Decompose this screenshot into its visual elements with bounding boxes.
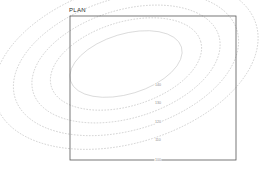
contour-label: 110 <box>155 138 162 142</box>
contour-line <box>62 18 190 109</box>
contour-line <box>0 0 273 176</box>
contour-label: 100 <box>154 158 161 162</box>
contour-label: 140 <box>154 83 161 87</box>
plan-view-panel: PLAN 140130120110100 <box>0 0 273 176</box>
contour-plot <box>0 0 273 176</box>
contour-label: 130 <box>154 101 161 105</box>
contour-line <box>0 0 256 161</box>
plan-frame-border <box>70 16 236 160</box>
page-title: PLAN <box>69 7 86 14</box>
contour-line <box>17 0 234 144</box>
contour-label: 120 <box>154 120 161 124</box>
contour-group <box>0 0 273 176</box>
contour-line <box>39 1 213 127</box>
